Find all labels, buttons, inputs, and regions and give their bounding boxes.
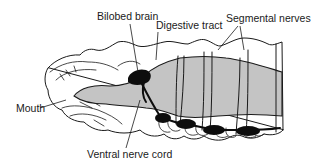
ganglion	[155, 113, 171, 123]
label-mouth: Mouth	[16, 102, 45, 114]
digestive-tract-shape	[74, 57, 282, 118]
label-segmental-nerves: Segmental nerves	[226, 12, 311, 24]
ganglion	[176, 119, 196, 129]
label-ventral-nerve-cord: Ventral nerve cord	[87, 148, 172, 160]
label-digestive-tract: Digestive tract	[156, 19, 223, 31]
nervous-system-diagram: Bilobed brain Digestive tract Segmental …	[0, 0, 322, 168]
label-bilobed-brain: Bilobed brain	[97, 10, 158, 22]
ganglion	[203, 125, 225, 135]
ganglion	[236, 126, 260, 136]
